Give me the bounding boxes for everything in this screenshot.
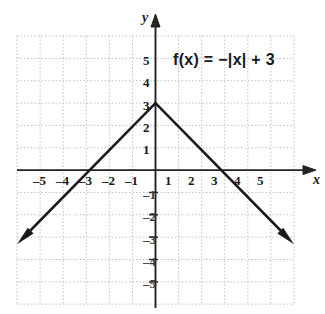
x-tick-label--1: –1 <box>125 174 138 187</box>
equation-annotation: f(x) = −|x| + 3 <box>173 52 275 68</box>
x-tick-label--5: –5 <box>33 174 46 187</box>
x-tick-label-2: 2 <box>188 174 195 187</box>
y-tick-label--2: –2 <box>143 210 156 223</box>
x-tick-label-5: 5 <box>257 174 264 187</box>
x-tick-label--2: –2 <box>102 174 115 187</box>
x-axis-label: x <box>313 173 320 187</box>
coordinate-plane-svg <box>0 0 325 314</box>
x-tick-label--4: –4 <box>56 174 69 187</box>
y-tick-label-5: 5 <box>143 54 150 67</box>
graph-figure: y x f(x) = −|x| + 3 –5 –4 –3 –2 –1 1 2 3… <box>0 0 325 314</box>
y-tick-label--3: –3 <box>143 233 156 246</box>
y-tick-label-1: 1 <box>143 143 150 156</box>
x-tick-label-1: 1 <box>165 174 172 187</box>
y-axis-label: y <box>142 11 148 25</box>
y-tick-label--5: –5 <box>143 277 156 290</box>
y-tick-label-2: 2 <box>143 121 150 134</box>
x-tick-label-3: 3 <box>211 174 218 187</box>
y-axis-arrowhead <box>151 14 160 27</box>
y-tick-label--4: –4 <box>143 255 156 268</box>
y-tick-label--1: –1 <box>143 188 156 201</box>
y-tick-label-4: 4 <box>143 76 150 89</box>
x-tick-label-4: 4 <box>234 174 241 187</box>
x-tick-label--3: –3 <box>79 174 92 187</box>
y-tick-label-3: 3 <box>143 99 150 112</box>
